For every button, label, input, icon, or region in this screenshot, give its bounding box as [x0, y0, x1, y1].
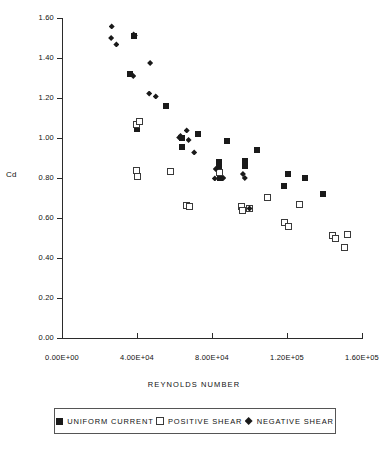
x-tick-label: 4.00E+04	[102, 353, 172, 362]
diamond-icon	[245, 417, 253, 425]
y-tick-label: 1.20	[20, 93, 54, 102]
legend-entry[interactable]: NEGATIVE SHEAR	[245, 417, 334, 426]
y-tick-label: 1.60	[20, 13, 54, 22]
legend-entry[interactable]: POSITIVE SHEAR	[156, 417, 242, 426]
y-tick-label: 0.20	[20, 293, 54, 302]
y-tick-label: 0.40	[20, 253, 54, 262]
x-tick-label: 1.60E+05	[327, 353, 388, 362]
y-tick-label: 1.40	[20, 53, 54, 62]
legend-entry[interactable]: UNIFORM CURRENT	[56, 417, 154, 426]
y-tick-label: 0.60	[20, 213, 54, 222]
chart-figure: 0.000.200.400.600.801.001.201.401.60 0.0…	[0, 0, 388, 455]
y-axis-title: Cd	[6, 170, 17, 179]
open-square-icon	[156, 417, 164, 425]
plot-area	[62, 18, 362, 338]
y-tick-label: 1.00	[20, 133, 54, 142]
x-tick-label: 8.00E+04	[177, 353, 247, 362]
legend-label: POSITIVE SHEAR	[168, 417, 242, 426]
y-tick-label: 0.00	[20, 333, 54, 342]
y-tick-label: 0.80	[20, 173, 54, 182]
filled-square-icon	[56, 418, 63, 425]
legend-label: NEGATIVE SHEAR	[257, 417, 334, 426]
x-tick-label: 0.00E+00	[27, 353, 97, 362]
chart-legend: UNIFORM CURRENTPOSITIVE SHEARNEGATIVE SH…	[54, 408, 336, 434]
x-tick-mark	[362, 333, 363, 339]
x-tick-label: 1.20E+05	[252, 353, 322, 362]
x-axis-title: REYNOLDS NUMBER	[0, 380, 388, 389]
legend-label: UNIFORM CURRENT	[67, 417, 154, 426]
